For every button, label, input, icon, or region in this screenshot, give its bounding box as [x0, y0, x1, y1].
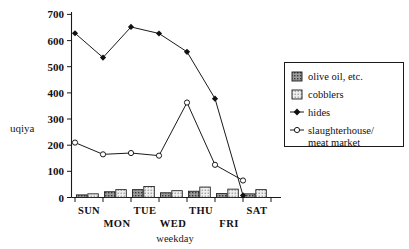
point-slaughterhouse-mon [100, 152, 105, 157]
bar-cobblers-sat [256, 190, 266, 198]
point-slaughterhouse-thu [184, 100, 189, 105]
bar-cobblers-mon [116, 190, 127, 198]
x-axis-title: weekday [156, 233, 194, 244]
bar-olive-oil-etc--sat [245, 194, 256, 198]
bar-cobblers-thu [200, 187, 211, 197]
bar-cobblers-sun [88, 194, 99, 198]
legend: olive oil, etc. cobblers hides slaughter… [285, 63, 404, 148]
y-axis-title: uqiya [10, 122, 35, 134]
y-tick-label-300: 300 [48, 113, 65, 125]
line-hides [75, 27, 243, 195]
bar-cobblers-tue [144, 187, 155, 198]
cobblers-swatch-icon [292, 90, 302, 99]
x-tick-label-thu: THU [189, 205, 213, 216]
x-axis [72, 198, 282, 203]
y-tick-label-400: 400 [48, 87, 65, 99]
bar-olive-oil-etc--mon [105, 192, 116, 198]
y-tick-label-0: 0 [59, 192, 65, 204]
point-hides-thu [184, 49, 190, 55]
point-slaughterhouse-wed [156, 153, 161, 158]
bar-olive-oil-etc--sun [77, 195, 88, 198]
bar-olive-oil-etc--thu [189, 191, 200, 197]
bar-olive-oil-etc--tue [133, 190, 144, 198]
line-slaughterhouse [75, 103, 243, 181]
y-tick-label-500: 500 [48, 61, 65, 73]
chart-container: 0 100 200 300 400 500 600 700 uqiya SUN … [0, 0, 409, 249]
y-tick-label-600: 600 [48, 35, 65, 47]
point-hides-fri [212, 96, 218, 102]
y-tick-label-700: 700 [48, 8, 65, 20]
legend-label-slaughterhouse-line2: meat market [308, 137, 360, 148]
point-hides-wed [156, 30, 162, 36]
legend-label-cobblers: cobblers [308, 89, 344, 100]
olive-oil-swatch-icon [292, 72, 302, 81]
x-tick-label-sat: SAT [247, 205, 268, 216]
bar-cobblers-fri [228, 189, 239, 197]
y-axis: 0 100 200 300 400 500 600 700 [48, 8, 72, 203]
y-axis-ticks [67, 14, 72, 197]
open-circle-icon [294, 127, 299, 132]
legend-label-slaughterhouse: slaughterhouse/ [308, 125, 374, 136]
x-tick-label-sun: SUN [78, 205, 100, 216]
legend-item-cobblers[interactable]: cobblers [292, 89, 344, 100]
x-tick-label-tue: TUE [134, 205, 157, 216]
bar-cobblers-wed [172, 191, 183, 198]
legend-label-hides: hides [308, 107, 330, 118]
point-slaughterhouse-fri [212, 162, 217, 167]
point-slaughterhouse-sat [240, 178, 245, 183]
y-tick-label-100: 100 [48, 165, 65, 177]
line-series-group [72, 24, 246, 199]
chart-svg: 0 100 200 300 400 500 600 700 uqiya SUN … [0, 0, 409, 249]
point-slaughterhouse-tue [128, 150, 133, 155]
x-tick-label-mon: MON [104, 218, 131, 229]
bar-olive-oil-etc--fri [217, 194, 228, 198]
bar-olive-oil-etc--wed [161, 193, 172, 198]
x-tick-label-wed: WED [160, 218, 186, 229]
x-tick-label-fri: FRI [219, 218, 238, 229]
legend-label-olive-oil: olive oil, etc. [308, 71, 363, 82]
y-tick-label-200: 200 [48, 139, 65, 151]
bar-series-group [77, 187, 267, 198]
point-slaughterhouse-sun [72, 140, 77, 145]
